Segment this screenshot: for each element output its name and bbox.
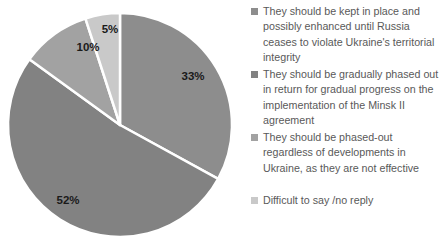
legend-swatch-icon <box>251 8 258 15</box>
legend-item-label: They should be kept in place and possibl… <box>263 4 445 65</box>
legend-swatch-icon <box>251 71 258 78</box>
legend-item-0[interactable]: They should be kept in place and possibl… <box>251 4 445 65</box>
slice-label-1: 33% <box>181 70 204 82</box>
legend-swatch-icon <box>251 134 258 141</box>
legend-item-label: They should be phased-out regardless of … <box>263 130 445 176</box>
pie-chart-figure: 33% 52% 10% 5% They should be kept in pl… <box>0 0 445 250</box>
pie-plot-area: 33% 52% 10% 5% <box>0 0 245 250</box>
slice-label-2: 52% <box>56 194 79 206</box>
slice-label-3: 10% <box>76 41 99 53</box>
legend-item-2[interactable]: They should be phased-out regardless of … <box>251 130 445 176</box>
pie-svg <box>0 0 245 250</box>
legend-item-label: Difficult to say /no reply <box>263 193 445 208</box>
legend-item-3[interactable]: Difficult to say /no reply <box>251 193 445 208</box>
pie-slice-group <box>8 13 232 237</box>
legend-item-label: They should be gradually phased out in r… <box>263 67 445 128</box>
chart-legend: They should be kept in place and possibl… <box>251 0 445 250</box>
legend-item-1[interactable]: They should be gradually phased out in r… <box>251 67 445 128</box>
slice-label-4: 5% <box>102 23 119 35</box>
legend-swatch-icon <box>251 197 258 204</box>
